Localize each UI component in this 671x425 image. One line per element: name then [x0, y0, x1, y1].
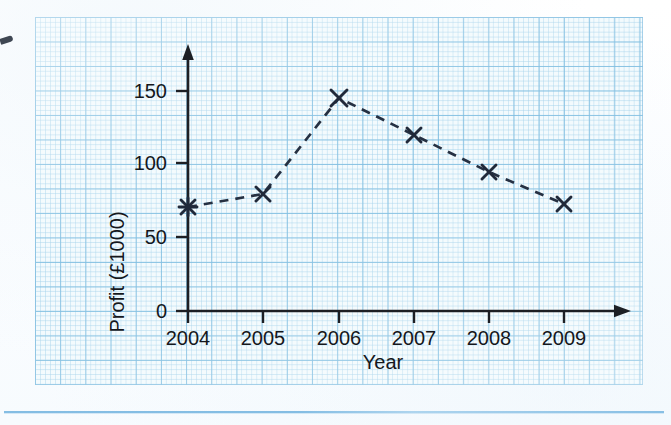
- x-tick-label-2004: 2004: [166, 328, 211, 348]
- data-point-2009[interactable]: [557, 197, 571, 211]
- x-tick-label-2007: 2007: [392, 328, 437, 348]
- data-series-line: [188, 98, 564, 207]
- data-point-2008[interactable]: [482, 165, 496, 179]
- x-tick-label-2006: 2006: [317, 328, 362, 348]
- y-tick-label-100: 100: [115, 153, 167, 173]
- x-tick-label-2008: 2008: [467, 328, 512, 348]
- line-chart-plot: [0, 0, 671, 425]
- worksheet-page: 150 100 50 0 2004 2005 2006 2007 2008 20…: [0, 0, 671, 425]
- y-tick-label-150: 150: [115, 81, 167, 101]
- arrow-up-icon: [182, 44, 194, 60]
- x-axis-ticks: [188, 311, 564, 323]
- arrow-right-icon: [614, 305, 631, 317]
- page-divider-rule-shadow: [4, 413, 664, 414]
- x-axis-title: Year: [363, 352, 403, 372]
- y-axis-title: Profit (£1000): [107, 211, 127, 332]
- y-axis: [182, 44, 194, 311]
- data-point-2004[interactable]: [179, 198, 197, 216]
- x-tick-label-2009: 2009: [542, 328, 587, 348]
- data-point-2006[interactable]: [331, 90, 347, 106]
- x-tick-label-2005: 2005: [241, 328, 286, 348]
- data-point-2007[interactable]: [407, 128, 421, 142]
